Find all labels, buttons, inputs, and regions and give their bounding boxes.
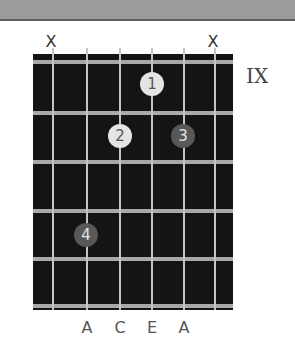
- fret-line: [33, 304, 233, 308]
- string-line: [214, 48, 216, 310]
- top-bar: [0, 0, 295, 21]
- muted-string-marker: X: [41, 32, 61, 51]
- note-label: A: [174, 318, 194, 337]
- fretboard: 1 2 3 4: [33, 54, 233, 310]
- note-label: C: [110, 318, 130, 337]
- finger-dot: 1: [140, 72, 164, 96]
- string-line: [119, 48, 121, 310]
- string-line: [52, 48, 54, 310]
- note-label: E: [142, 318, 162, 337]
- fret-line: [33, 160, 233, 164]
- note-label: A: [77, 318, 97, 337]
- finger-dot: 3: [171, 124, 195, 148]
- finger-dot: 2: [108, 124, 132, 148]
- fret-line: [33, 209, 233, 213]
- string-line: [86, 48, 88, 310]
- fret-position-label: IX: [246, 64, 268, 88]
- string-line: [183, 48, 185, 310]
- muted-string-marker: X: [203, 32, 223, 51]
- fret-line: [33, 111, 233, 115]
- finger-dot: 4: [74, 223, 98, 247]
- fret-line: [33, 257, 233, 261]
- fret-line: [33, 60, 233, 64]
